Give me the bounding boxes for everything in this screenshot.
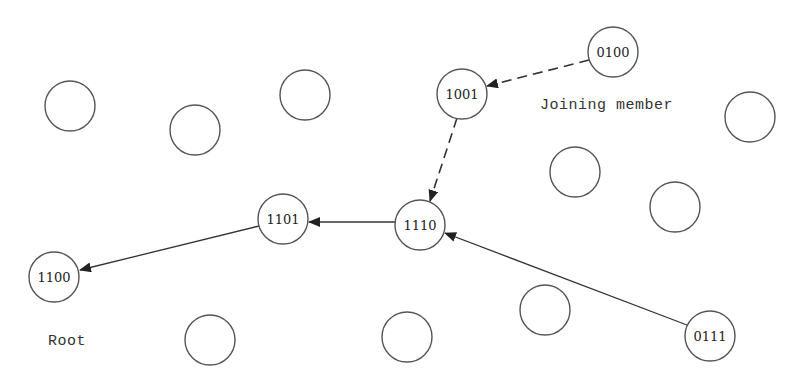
empty-node xyxy=(382,312,432,362)
node-label: 0100 xyxy=(596,45,629,60)
empty-node xyxy=(45,81,95,131)
edge-1001-to-1110 xyxy=(430,118,457,201)
node-label: 1100 xyxy=(37,270,70,285)
empty-node xyxy=(725,92,775,142)
empty-node xyxy=(520,285,570,335)
node-1110: 1110 xyxy=(395,200,445,250)
node-1100-root: 1100 xyxy=(29,252,79,302)
node-label: 1101 xyxy=(266,212,299,227)
edge-0100-to-1001 xyxy=(487,60,589,86)
node-1101: 1101 xyxy=(258,194,308,244)
joining-member-caption: Joining member xyxy=(540,97,673,114)
network-diagram: 0100 1001 1101 1110 1100 0111 Joining me… xyxy=(0,0,805,386)
root-caption: Root xyxy=(48,333,86,350)
node-label: 0111 xyxy=(693,329,726,344)
node-1001: 1001 xyxy=(437,69,487,119)
empty-node xyxy=(550,147,600,197)
empty-node xyxy=(650,182,700,232)
edge-1101-to-1100 xyxy=(80,226,259,270)
node-label: 1001 xyxy=(445,87,478,102)
node-label: 1110 xyxy=(403,218,436,233)
empty-node xyxy=(170,105,220,155)
node-0100: 0100 xyxy=(588,27,638,77)
node-0111: 0111 xyxy=(685,311,735,361)
empty-node xyxy=(185,315,235,365)
empty-node xyxy=(280,70,330,120)
